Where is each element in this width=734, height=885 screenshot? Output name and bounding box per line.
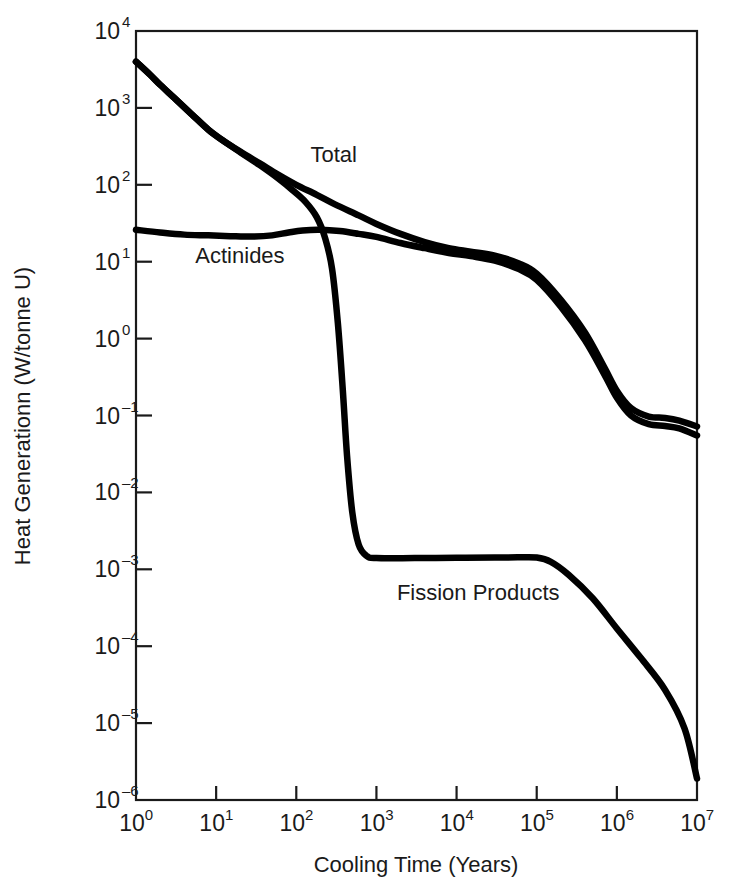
y-tick-exponent: –5 [122, 705, 139, 722]
x-axis-ticks: 100101102103104105106107 [119, 786, 714, 836]
x-tick-exponent: 7 [706, 806, 714, 823]
y-tick-exponent: –1 [122, 398, 139, 415]
y-tick-label: 10 [94, 403, 120, 429]
x-axis-title: Cooling Time (Years) [314, 852, 519, 877]
x-tick-exponent: 2 [305, 806, 313, 823]
x-tick-label: 10 [600, 810, 626, 836]
x-tick-label: 10 [520, 810, 546, 836]
x-tick-exponent: 3 [385, 806, 393, 823]
y-tick-exponent: –2 [122, 474, 139, 491]
y-tick-label: 10 [94, 556, 120, 582]
y-tick-label: 10 [94, 172, 120, 198]
data-curve-fission-products [136, 62, 697, 779]
y-tick-label: 10 [94, 249, 120, 275]
series-label-group: TotalActinidesFission Products [195, 142, 559, 605]
y-tick-exponent: 4 [122, 13, 130, 30]
heat-generation-log-log-chart: 10410310210110010–110–210–310–410–510–6 … [0, 0, 734, 885]
x-tick-exponent: 4 [465, 806, 473, 823]
x-tick-exponent: 1 [225, 806, 233, 823]
y-tick-label: 10 [94, 18, 120, 44]
y-tick-exponent: –3 [122, 551, 139, 568]
y-tick-label: 10 [94, 326, 120, 352]
y-tick-label: 10 [94, 95, 120, 121]
data-series-group [136, 62, 697, 779]
x-tick-exponent: 5 [546, 806, 554, 823]
plot-border [136, 31, 697, 800]
x-tick-label: 10 [199, 810, 225, 836]
y-tick-label: 10 [94, 633, 120, 659]
y-tick-label: 10 [94, 710, 120, 736]
y-tick-label: 10 [94, 787, 120, 813]
plot-frame [136, 31, 697, 800]
y-axis-title: Heat Generationn (W/tonne U) [10, 267, 35, 565]
y-tick-exponent: 2 [122, 167, 130, 184]
series-label-actinides: Actinides [195, 243, 284, 268]
x-tick-label: 10 [360, 810, 386, 836]
x-tick-label: 10 [440, 810, 466, 836]
series-label-total: Total [310, 142, 356, 167]
x-tick-exponent: 6 [626, 806, 634, 823]
y-tick-exponent: –4 [122, 628, 139, 645]
series-label-fission-products: Fission Products [397, 580, 560, 605]
y-tick-exponent: 0 [122, 321, 130, 338]
y-tick-exponent: –6 [122, 782, 139, 799]
y-tick-label: 10 [94, 479, 120, 505]
x-tick-exponent: 0 [145, 806, 153, 823]
y-tick-exponent: 1 [122, 244, 130, 261]
y-axis-ticks: 10410310210110010–110–210–310–410–510–6 [94, 13, 152, 813]
x-tick-label: 10 [680, 810, 706, 836]
x-tick-label: 10 [119, 810, 145, 836]
chart-figure: 10410310210110010–110–210–310–410–510–6 … [0, 0, 734, 885]
y-tick-exponent: 3 [122, 90, 130, 107]
x-tick-label: 10 [279, 810, 305, 836]
